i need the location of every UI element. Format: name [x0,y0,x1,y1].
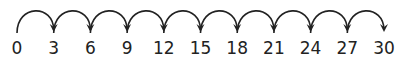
number-label: 3 [39,38,69,58]
jump-arc [54,11,91,33]
number-label: 12 [149,38,179,58]
number-label: 27 [332,38,362,58]
jump-arc [164,11,201,33]
jump-arc [17,11,54,33]
number-label: 21 [259,38,289,58]
number-label: 6 [75,38,105,58]
number-label: 18 [222,38,252,58]
jump-arc [311,11,348,33]
number-label: 0 [2,38,32,58]
number-label: 15 [186,38,216,58]
jump-arc [127,11,164,33]
jump-arc [274,11,311,33]
jump-arc [347,11,384,33]
jump-arc [201,11,238,33]
number-label: 24 [296,38,326,58]
number-label: 9 [112,38,142,58]
number-label: 30 [369,38,399,58]
jump-arc [90,11,127,33]
jump-arc [237,11,274,33]
